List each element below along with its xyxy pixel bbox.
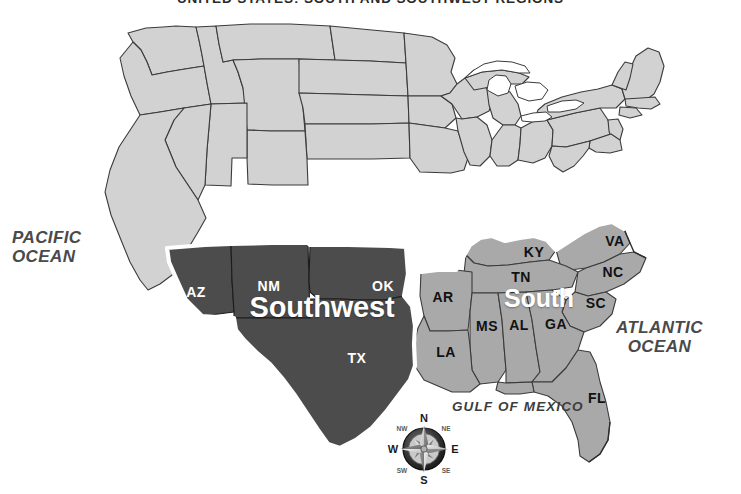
state-label-nc: NC <box>602 264 623 280</box>
atlantic-ocean-line1: ATLANTIC <box>616 318 703 337</box>
compass-west-label: W <box>388 443 398 455</box>
pacific-ocean-line2: OCEAN <box>12 247 82 266</box>
compass-rose: N S E W NW NE SW SE <box>392 417 456 481</box>
pacific-ocean-label: PACIFIC OCEAN <box>12 228 82 266</box>
compass-southwest-label: SW <box>397 467 407 474</box>
compass-northwest-label: NW <box>397 425 408 432</box>
compass-north-label: N <box>420 412 428 424</box>
state-label-ms: MS <box>476 318 498 334</box>
state-label-az: AZ <box>186 284 206 300</box>
state-label-ok: OK <box>372 278 394 294</box>
southwest-region-group <box>167 243 415 448</box>
compass-southeast-label: SE <box>442 467 451 474</box>
atlantic-ocean-label: ATLANTIC OCEAN <box>616 318 703 356</box>
state-label-ga: GA <box>545 316 567 332</box>
state-label-sc: SC <box>586 295 606 311</box>
state-label-al: AL <box>509 317 529 333</box>
compass-northeast-label: NE <box>441 425 450 432</box>
gulf-of-mexico-label: GULF OF MEXICO <box>452 399 584 414</box>
region-label-southwest: Southwest <box>250 291 395 324</box>
state-label-tx: TX <box>348 350 367 366</box>
state-label-fl: FL <box>588 390 606 406</box>
compass-south-label: S <box>420 474 427 486</box>
region-label-south: South <box>504 284 574 313</box>
state-label-ar: AR <box>432 289 453 305</box>
pacific-ocean-line1: PACIFIC <box>12 228 82 247</box>
state-label-la: LA <box>436 344 456 360</box>
state-label-nm: NM <box>258 278 281 294</box>
atlantic-ocean-line2: OCEAN <box>616 337 703 356</box>
compass-east-label: E <box>451 443 458 455</box>
state-label-va: VA <box>605 233 624 249</box>
united-states-map-svg <box>0 0 741 494</box>
map-figure: UNITED STATES: SOUTH AND SOUTHWEST REGIO… <box>0 0 741 494</box>
state-label-tn: TN <box>511 269 531 285</box>
state-label-ky: KY <box>524 244 544 260</box>
